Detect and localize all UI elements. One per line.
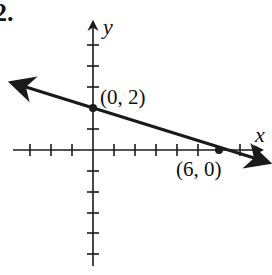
x-axis-label: x (255, 122, 265, 148)
point-0-2 (89, 104, 97, 112)
point-label-6-0: (6, 0) (176, 157, 222, 182)
y-axis-label: y (103, 14, 113, 40)
point-6-0 (215, 146, 223, 154)
coordinate-graph (0, 0, 272, 275)
point-label-0-2: (0, 2) (100, 85, 146, 110)
